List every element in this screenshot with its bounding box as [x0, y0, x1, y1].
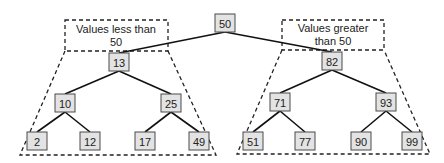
tree-edge: [65, 112, 90, 132]
tree-edge: [119, 71, 171, 94]
tree-node-77: 77: [295, 132, 315, 150]
tree-edge: [280, 70, 332, 93]
tree-node-82: 82: [322, 52, 342, 70]
tree-edge: [37, 112, 65, 132]
node-value: 2: [34, 136, 40, 148]
tree-node-49: 49: [189, 132, 209, 150]
node-value: 77: [299, 136, 311, 148]
tree-node-2: 2: [27, 132, 47, 150]
tree-edge: [171, 112, 199, 132]
node-value: 93: [380, 97, 392, 109]
tree-edge: [145, 112, 171, 132]
tree-edge: [386, 111, 412, 132]
tree-node-93: 93: [376, 93, 396, 111]
tree-edge: [332, 70, 386, 93]
tree-edge: [119, 32, 225, 53]
tree-edge: [65, 71, 119, 94]
left-label-line2: 50: [110, 36, 122, 48]
tree-node-51: 51: [243, 132, 263, 150]
tree-node-90: 90: [351, 132, 371, 150]
right-label-line1: Values greater: [298, 22, 369, 34]
right-label-line2: than 50: [315, 35, 352, 47]
node-value: 12: [84, 136, 96, 148]
node-value: 17: [139, 136, 151, 148]
node-value: 51: [247, 136, 259, 148]
tree-edges: [37, 32, 412, 132]
tree-node-13: 13: [109, 53, 129, 71]
tree-node-71: 71: [270, 93, 290, 111]
tree-edge: [361, 111, 386, 132]
tree-node-10: 10: [55, 94, 75, 112]
tree-node-12: 12: [80, 132, 100, 150]
node-value: 25: [165, 98, 177, 110]
tree-node-25: 25: [161, 94, 181, 112]
node-value: 49: [193, 136, 205, 148]
node-value: 82: [326, 56, 338, 68]
node-value: 50: [219, 18, 231, 30]
bst-diagram: Values less than 50 Values greater than …: [0, 0, 444, 163]
tree-edge: [253, 111, 280, 132]
tree-edge: [280, 111, 305, 132]
node-value: 99: [406, 136, 418, 148]
node-value: 13: [113, 57, 125, 69]
node-value: 90: [355, 136, 367, 148]
tree-node-17: 17: [135, 132, 155, 150]
tree-node-99: 99: [402, 132, 422, 150]
node-value: 10: [59, 98, 71, 110]
left-label-line1: Values less than: [76, 23, 156, 35]
node-value: 71: [274, 97, 286, 109]
tree-node-50: 50: [215, 14, 235, 32]
